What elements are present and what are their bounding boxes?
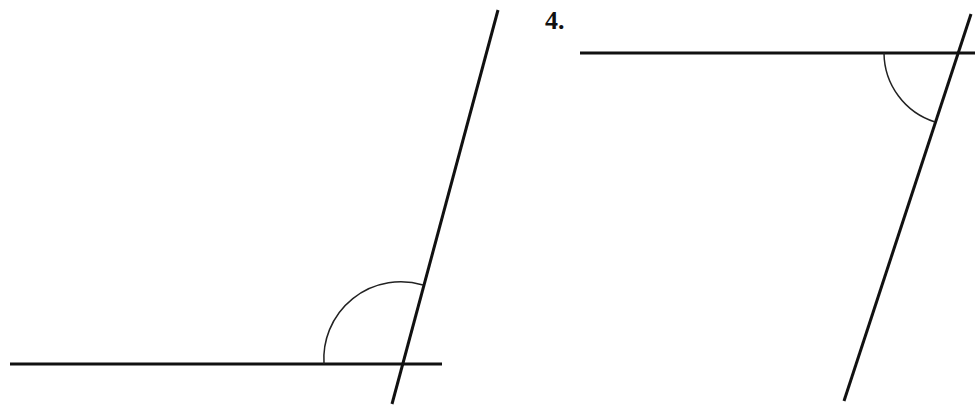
figure-left [10, 10, 498, 404]
geometry-diagram [0, 0, 980, 407]
transversal-line-left [392, 10, 498, 404]
angle-arc-right [884, 53, 935, 122]
transversal-line-right [844, 14, 971, 401]
figure-number-label: 4. [545, 8, 565, 34]
figure-right [580, 14, 975, 401]
angle-arc-left [324, 282, 423, 364]
